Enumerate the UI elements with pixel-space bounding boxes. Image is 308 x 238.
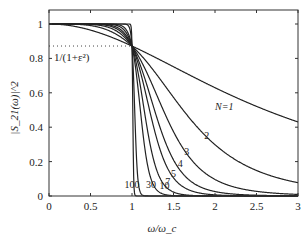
y-tick-label: 0.4 <box>29 121 43 133</box>
curve-label: 10 <box>159 180 169 191</box>
y-tick-label: 0.8 <box>29 52 43 64</box>
y-axis-label: |S_21(ω)|^2 <box>8 81 21 135</box>
x-tick-label: 0.5 <box>84 200 98 212</box>
x-tick-label: 1.5 <box>167 200 181 212</box>
curve-label: 5 <box>171 168 176 179</box>
x-tick-label: 0 <box>46 200 52 212</box>
curve-label: 2 <box>204 130 209 141</box>
x-tick-label: 2 <box>212 200 218 212</box>
y-tick-label: 0.2 <box>29 156 43 168</box>
curve-label: 100 <box>125 179 140 190</box>
ripple-label: 1/(1+ε²) <box>54 51 90 64</box>
x-tick-label: 2.5 <box>250 200 264 212</box>
curve-label: 4 <box>178 158 183 169</box>
y-tick-label: 0.6 <box>29 87 43 99</box>
x-tick-label: 3 <box>295 200 301 212</box>
curve-label: 3 <box>184 146 189 157</box>
x-tick-label: 1 <box>129 200 135 212</box>
curve-n-1 <box>49 24 298 122</box>
curve-label: N=1 <box>214 101 233 112</box>
y-tick-label: 0 <box>38 190 44 202</box>
chart: 1/(1+ε²) 00.511.522.5300.20.40.60.81 N=1… <box>0 0 308 238</box>
x-axis-label: ω/ω_c <box>148 222 177 234</box>
curve-label: 30 <box>146 179 156 190</box>
y-tick-label: 1 <box>38 18 44 30</box>
